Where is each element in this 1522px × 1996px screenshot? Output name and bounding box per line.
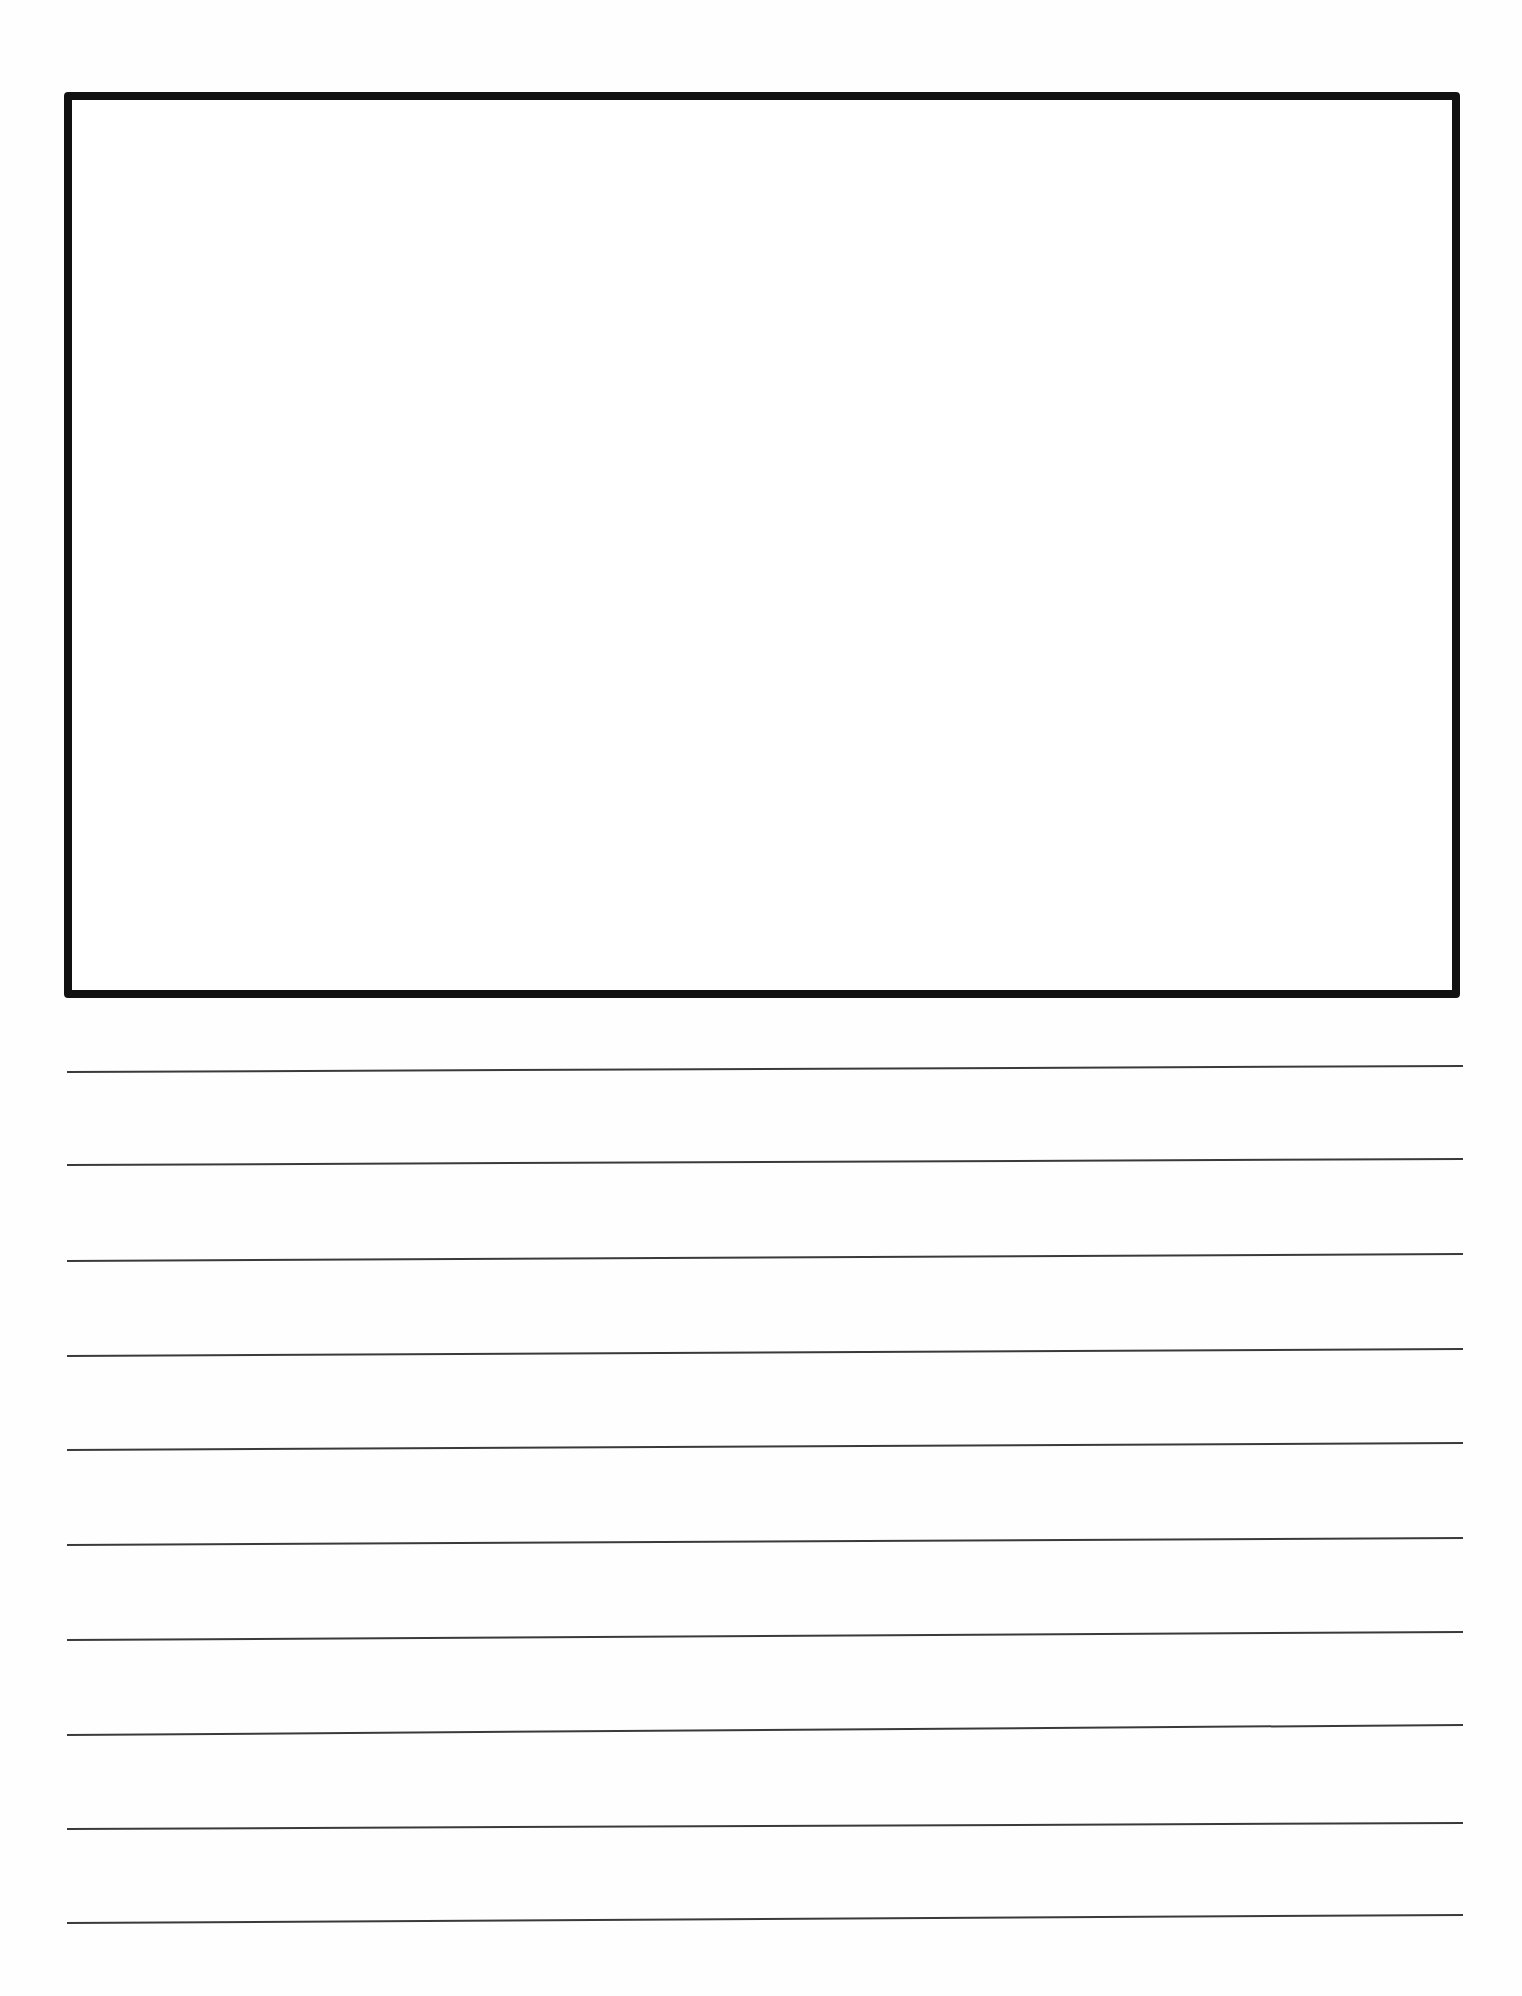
- writing-line: [67, 1159, 1463, 1165]
- writing-line: [67, 1443, 1463, 1450]
- writing-lines-area[interactable]: [0, 0, 1522, 1996]
- writing-line: [67, 1725, 1463, 1735]
- writing-line: [67, 1254, 1463, 1261]
- worksheet-page: [0, 0, 1522, 1996]
- writing-line: [67, 1538, 1463, 1545]
- writing-line: [67, 1066, 1463, 1072]
- writing-line: [67, 1349, 1463, 1356]
- writing-line: [67, 1632, 1463, 1640]
- writing-line: [67, 1823, 1463, 1829]
- writing-line: [67, 1915, 1463, 1923]
- writing-lines: [0, 0, 1522, 1996]
